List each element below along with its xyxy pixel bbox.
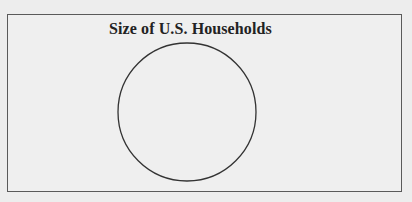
pie-chart: [117, 42, 257, 182]
pie-outline-circle: [118, 43, 256, 181]
chart-frame: Size of U.S. Households: [7, 14, 402, 192]
chart-title: Size of U.S. Households: [109, 20, 272, 38]
pie-circle-outline: [117, 42, 257, 182]
